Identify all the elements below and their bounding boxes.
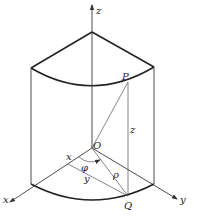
phi-label: φ — [81, 162, 88, 173]
y-axis-label: y — [179, 194, 186, 205]
top-radius-right — [92, 32, 154, 67]
x-axis-label: x — [3, 194, 9, 205]
x-coord-label: x — [66, 151, 72, 162]
cylindrical-coordinates-diagram: z x y O P Q z x y ρ φ — [0, 0, 197, 219]
origin-label: O — [93, 140, 101, 151]
x-axis — [10, 148, 92, 202]
point-q-label: Q — [124, 200, 132, 211]
bottom-arc — [31, 184, 154, 200]
rho-label: ρ — [112, 169, 119, 180]
y-coord-label: y — [83, 173, 90, 184]
point-p-label: P — [121, 71, 129, 82]
top-arc — [31, 67, 154, 86]
z-axis-label: z — [95, 5, 102, 16]
oq-rho-line — [92, 148, 128, 196]
height-z-label: z — [129, 124, 136, 135]
y-axis — [92, 148, 177, 199]
y-component-line — [68, 164, 128, 196]
top-radius-left — [31, 32, 92, 68]
op-line — [92, 82, 128, 148]
